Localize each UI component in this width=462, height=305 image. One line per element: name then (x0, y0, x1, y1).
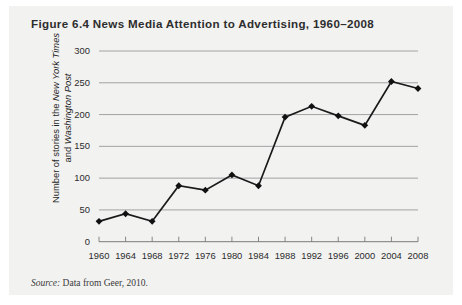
y-axis-tick-label: 300 (64, 45, 90, 56)
data-point-marker (229, 172, 236, 179)
data-point-marker (202, 187, 209, 194)
x-axis-tick-label: 1984 (244, 250, 274, 261)
x-axis-tick-label: 2008 (403, 250, 433, 261)
y-axis-tick-label: 150 (64, 140, 90, 151)
data-series-line (99, 82, 418, 222)
x-axis-tick-label: 2004 (376, 250, 406, 261)
x-axis-tick-label: 1988 (270, 250, 300, 261)
source-note: Source: Data from Geer, 2010. (31, 278, 148, 288)
x-axis-tick-label: 1996 (323, 250, 353, 261)
x-axis-tick-label: 1968 (137, 250, 167, 261)
x-axis-tick-label: 1960 (84, 250, 114, 261)
data-point-markers (96, 78, 422, 225)
x-axis-tick-label: 1964 (111, 250, 141, 261)
y-axis-tick-label: 50 (64, 204, 90, 215)
data-point-marker (96, 218, 103, 225)
y-axis-tick-label: 250 (64, 77, 90, 88)
data-point-marker (255, 182, 262, 189)
data-point-marker (122, 210, 129, 217)
source-label: Source: (31, 278, 60, 288)
y-axis-tick-label: 100 (64, 172, 90, 183)
y-axis-tick-label: 0 (64, 236, 90, 247)
x-axis-tick-label: 2000 (350, 250, 380, 261)
x-axis-tick-label: 1992 (297, 250, 327, 261)
source-text: Data from Geer, 2010. (63, 278, 148, 288)
y-axis-tick-label: 200 (64, 109, 90, 120)
x-axis-tick-label: 1972 (164, 250, 194, 261)
x-axis-tick-label: 1980 (217, 250, 247, 261)
data-point-marker (308, 103, 315, 110)
data-point-marker (415, 85, 422, 92)
data-point-marker (335, 112, 342, 119)
x-axis-tick-label: 1976 (190, 250, 220, 261)
figure-panel: Figure 6.4 News Media Attention to Adver… (9, 6, 453, 295)
x-axis-ticks (99, 237, 418, 242)
